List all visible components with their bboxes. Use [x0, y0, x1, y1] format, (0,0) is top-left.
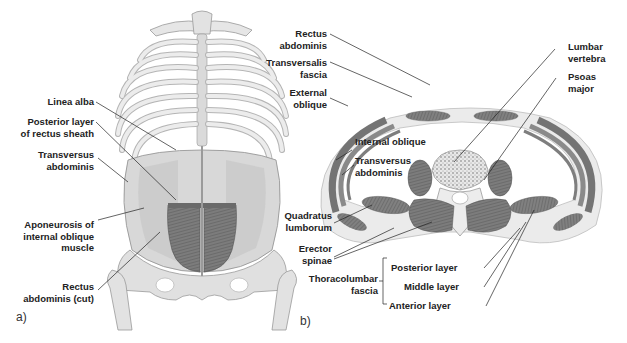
label-posterior-layer-rectus-sheath: Posterior layer of rectus sheath	[21, 116, 94, 139]
label-linea-alba: Linea alba	[48, 96, 94, 108]
label-quadratus-lumborum: Quadratus lumborum	[284, 210, 332, 233]
label-transversus-abdominis-a: Transversus abdominis	[38, 149, 94, 172]
panel-a-tag: a)	[16, 310, 27, 324]
label-anterior-layer: Anterior layer	[389, 300, 451, 312]
label-rectus-abdominis-cut: Rectus abdominis (cut)	[23, 281, 94, 304]
label-transversalis-fascia: Transversalis fascia	[266, 57, 327, 80]
label-posterior-layer: Posterior layer	[391, 262, 458, 274]
label-erector-spinae: Erector spinae	[299, 243, 332, 266]
label-external-oblique: External oblique	[290, 87, 328, 110]
label-internal-oblique: Internal oblique	[355, 136, 426, 148]
label-aponeurosis-internal-oblique: Aponeurosis of internal oblique muscle	[23, 219, 94, 254]
label-thoracolumbar-fascia: Thoracolumbar fascia	[309, 273, 378, 296]
label-rectus-abdominis-b: Rectus abdominis	[279, 28, 327, 51]
label-transversus-abdominis-b: Transversus abdominis	[355, 155, 411, 178]
label-psoas-major: Psoas major	[568, 71, 596, 94]
panel-b-tag: b)	[300, 314, 311, 328]
label-lumbar-vertebra: Lumbar vertebra	[568, 41, 606, 64]
label-middle-layer: Middle layer	[404, 281, 459, 293]
